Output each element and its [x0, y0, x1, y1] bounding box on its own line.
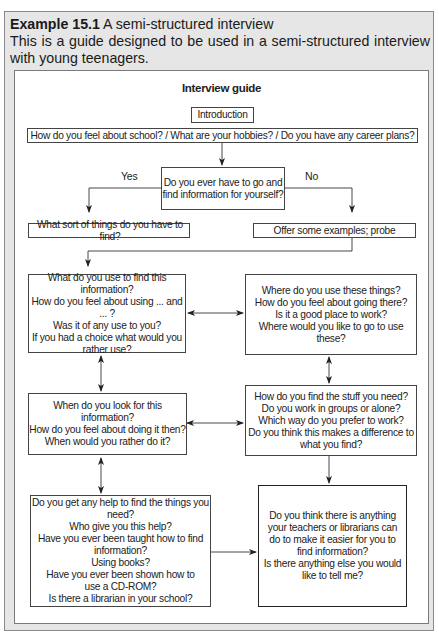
where-use-box: Where do you use these things? How do yo…: [245, 274, 417, 355]
how-find-text: How do you find the stuff you need? Do y…: [248, 391, 414, 451]
where-use-text: Where do you use these things? How do yo…: [246, 285, 416, 345]
opening-questions-text: How do you feel about school? / What are…: [31, 130, 415, 142]
help-text: Do you get any help to find the things y…: [32, 497, 209, 605]
no-label: No: [305, 170, 318, 182]
when-look-box: When do you look for this information? H…: [28, 393, 187, 455]
example-heading: Example 15.1 A semi-structured interview: [10, 16, 430, 33]
how-find-box: How do you find the stuff you need? Do y…: [245, 385, 417, 456]
yes-label: Yes: [121, 170, 138, 182]
decision-box: Do you ever have to go and find informat…: [161, 167, 285, 210]
example-description: This is a guide designed to be used in a…: [10, 33, 430, 67]
example-title: A semi-structured interview: [100, 16, 273, 32]
when-look-text: When do you look for this information? H…: [29, 400, 186, 448]
guide-title: Interview guide: [14, 82, 429, 94]
what-use-box: What do you use to find this information…: [28, 274, 186, 353]
final-text: Do you think there is anything your teac…: [264, 510, 402, 582]
decision-text: Do you ever have to go and find informat…: [162, 177, 283, 201]
what-use-text: What do you use to find this information…: [29, 272, 185, 356]
yes-branch-box: What sort of things do you have to find?: [28, 223, 190, 238]
introduction-text: Introduction: [197, 109, 247, 121]
yes-branch-text: What sort of things do you have to find?: [31, 219, 189, 243]
no-branch-text: Offer some examples; probe: [274, 225, 396, 237]
help-box: Do you get any help to find the things y…: [30, 495, 211, 607]
example-number: Example 15.1: [10, 16, 100, 32]
final-box: Do you think there is anything your teac…: [258, 485, 407, 607]
no-branch-box: Offer some examples; probe: [253, 223, 416, 238]
introduction-box: Introduction: [191, 107, 254, 123]
opening-questions-box: How do you feel about school? / What are…: [27, 128, 418, 143]
